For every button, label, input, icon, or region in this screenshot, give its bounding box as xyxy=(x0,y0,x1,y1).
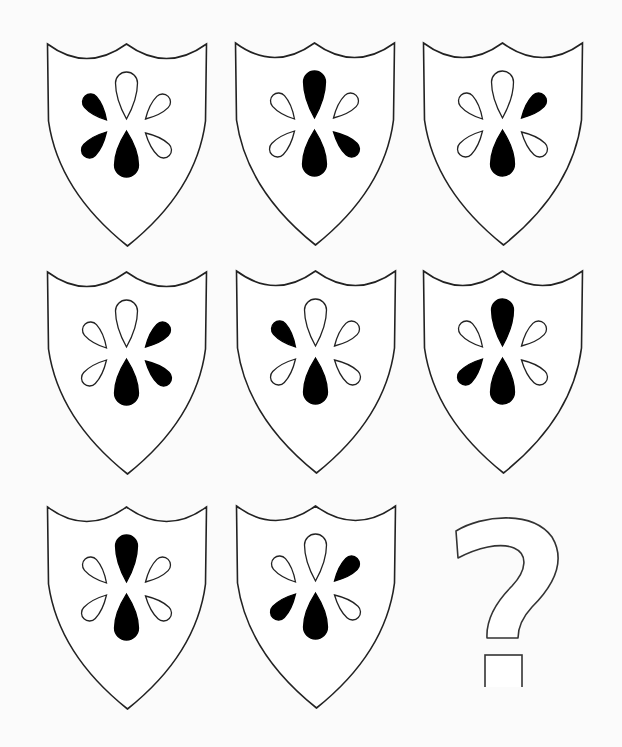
shield-icon xyxy=(45,269,210,477)
shield-icon xyxy=(234,503,399,711)
question-mark-icon xyxy=(452,512,562,687)
shield-5 xyxy=(234,268,399,476)
shield-7 xyxy=(45,504,210,712)
shield-icon xyxy=(421,40,586,248)
shield-icon xyxy=(421,268,586,476)
shield-icon xyxy=(45,504,210,712)
shield-1 xyxy=(45,41,210,249)
shield-icon xyxy=(234,268,399,476)
shield-icon xyxy=(233,40,398,248)
shield-6 xyxy=(421,268,586,476)
shield-3 xyxy=(421,40,586,248)
shield-icon xyxy=(45,41,210,249)
shield-2 xyxy=(233,40,398,248)
shield-4 xyxy=(45,269,210,477)
shield-8 xyxy=(234,503,399,711)
